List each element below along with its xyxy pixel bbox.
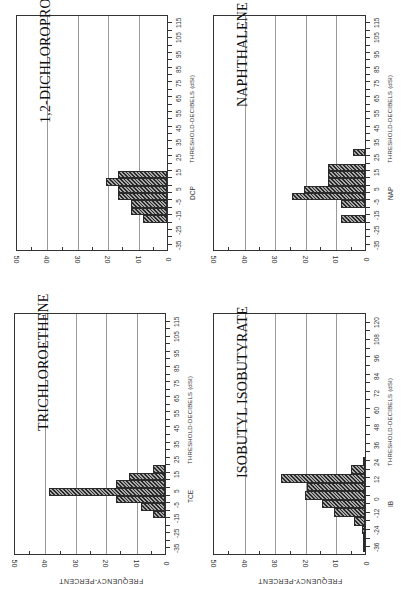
- y-minor-tick: [60, 551, 61, 555]
- x-tick-label: -5: [173, 502, 180, 508]
- x-tick: [168, 37, 172, 38]
- x-tick-label: 108: [373, 334, 380, 345]
- x-tick-label: -5: [175, 200, 182, 206]
- x-tick: [166, 449, 170, 450]
- x-tick-label: 15: [173, 471, 180, 478]
- x-tick: [366, 391, 370, 392]
- histogram-bar: [341, 215, 365, 222]
- histogram-bar: [118, 186, 167, 193]
- x-tick: [366, 374, 370, 375]
- x-tick: [366, 538, 370, 539]
- histogram-bar: [153, 511, 165, 519]
- x-tick: [366, 512, 370, 513]
- x-tick: [168, 133, 172, 134]
- x-tick-label: 45: [175, 124, 182, 131]
- x-tick-label: 65: [175, 95, 182, 102]
- x-tick: [366, 322, 370, 323]
- y-tick-label: 10: [332, 253, 339, 267]
- x-tick: [366, 133, 370, 134]
- x-tick: [366, 177, 370, 178]
- x-tick-label: -35: [173, 544, 180, 553]
- x-tick: [166, 479, 170, 480]
- histogram-bar: [292, 193, 365, 200]
- x-tick: [166, 472, 170, 473]
- gridline: [78, 16, 79, 250]
- y-tick-label: 30: [271, 557, 278, 571]
- y-tick-label: 50: [13, 253, 20, 267]
- x-tick-label: 5: [173, 489, 180, 493]
- x-tick: [166, 389, 170, 390]
- x-tick: [166, 517, 170, 518]
- histogram-bar: [307, 483, 365, 492]
- y-minor-tick: [90, 551, 91, 555]
- x-tick-label: 25: [173, 455, 180, 462]
- x-tick: [366, 185, 370, 186]
- y-minor-tick: [31, 247, 32, 251]
- x-tick: [168, 148, 172, 149]
- x-tick-label: 105: [175, 32, 182, 43]
- x-tick: [166, 396, 170, 397]
- x-tick: [166, 434, 170, 435]
- y-axis-label: FREQUENCY-PERCENT: [59, 578, 143, 585]
- x-tick-label: 36: [373, 441, 380, 448]
- x-tick: [366, 45, 370, 46]
- x-tick: [366, 67, 370, 68]
- x-tick: [366, 451, 370, 452]
- x-tick: [166, 358, 170, 359]
- chart-title: 1,2-DICHLOROPROPANE: [38, 0, 54, 123]
- x-tick: [168, 192, 172, 193]
- x-tick: [166, 336, 170, 337]
- histogram-bar: [363, 534, 365, 543]
- y-tick-label: 40: [41, 557, 48, 571]
- x-tick: [366, 330, 370, 331]
- x-tick: [168, 155, 172, 156]
- gridline: [137, 314, 138, 554]
- x-tick: [366, 529, 370, 530]
- x-tick: [366, 148, 370, 149]
- x-tick: [166, 464, 170, 465]
- x-tick: [168, 214, 172, 215]
- x-tick: [166, 442, 170, 443]
- y-minor-tick: [120, 551, 121, 555]
- x-tick: [366, 104, 370, 105]
- histogram-bar: [304, 186, 365, 193]
- y-minor-tick: [151, 551, 152, 555]
- x-axis-label: THRESHOLD-DECIBELS (dSI): [189, 74, 195, 162]
- x-tick-label: 105: [373, 32, 380, 43]
- x-tick-label: -12: [373, 508, 380, 517]
- x-tick: [166, 540, 170, 541]
- histogram-bar: [353, 149, 365, 156]
- x-tick-label: -35: [373, 240, 380, 249]
- gridline: [306, 314, 307, 554]
- x-tick-label: -36: [373, 543, 380, 552]
- x-tick-label: 84: [373, 372, 380, 379]
- histogram-bar: [328, 164, 365, 171]
- x-tick: [366, 192, 370, 193]
- x-axis-label: THRESHOLD-DECIBELS (dSI): [187, 376, 193, 464]
- x-tick: [366, 111, 370, 112]
- x-tick-label: -25: [373, 225, 380, 234]
- x-tick: [366, 443, 370, 444]
- x-tick: [166, 532, 170, 533]
- histogram-bar: [49, 488, 165, 496]
- x-tick: [168, 207, 172, 208]
- chart-title: NAPHTHALENE: [235, 2, 251, 107]
- histogram-bar: [129, 473, 165, 481]
- y-minor-tick: [29, 551, 30, 555]
- x-tick: [366, 477, 370, 478]
- x-tick: [168, 96, 172, 97]
- histogram-bar: [131, 208, 167, 215]
- x-tick: [168, 74, 172, 75]
- x-tick-label: 95: [175, 51, 182, 58]
- x-tick: [168, 59, 172, 60]
- x-tick-label: 85: [173, 365, 180, 372]
- x-tick-label: 85: [175, 65, 182, 72]
- x-tick: [366, 425, 370, 426]
- x-tick: [366, 89, 370, 90]
- x-tick-label: 24: [373, 459, 380, 466]
- x-tick: [166, 525, 170, 526]
- x-tick: [366, 170, 370, 171]
- x-tick: [366, 199, 370, 200]
- histogram-bar: [328, 171, 365, 178]
- compound-abbreviation: NAP: [387, 187, 394, 200]
